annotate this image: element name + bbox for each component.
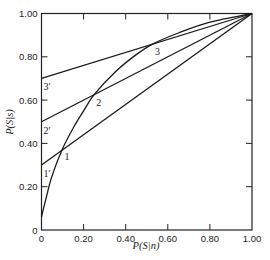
y-axis-title: P(S|s) (4, 109, 16, 136)
x-axis-title: P(S|n) (132, 240, 160, 252)
roc-chart: 00.200.400.600.801.0000.200.400.600.801.… (0, 0, 270, 260)
x-tick-label: 0.20 (74, 233, 93, 244)
axis-ticks: 00.200.400.600.801.0000.200.400.600.801.… (19, 8, 261, 244)
point-label: 3′ (44, 81, 51, 92)
point-label: 1 (65, 151, 70, 162)
x-tick-label: 0 (39, 233, 44, 244)
series-line (42, 14, 253, 166)
point-label: 2′ (44, 125, 51, 136)
y-tick-label: 0.40 (19, 138, 38, 149)
y-tick-label: 0 (32, 225, 37, 236)
y-tick-label: 0.60 (19, 95, 38, 106)
y-tick-label: 0.80 (19, 51, 38, 62)
series-line (42, 14, 253, 79)
x-tick-label: 0.60 (159, 233, 178, 244)
x-tick-label: 0.80 (201, 233, 220, 244)
series-line (42, 14, 253, 122)
point-label: 1′ (44, 168, 51, 179)
series-line (42, 14, 253, 218)
x-tick-label: 1.00 (243, 233, 262, 244)
point-label: 3 (155, 46, 160, 57)
data-series (42, 14, 253, 218)
point-label: 2 (96, 97, 101, 108)
y-tick-label: 1.00 (19, 8, 38, 19)
y-tick-label: 0.20 (19, 181, 38, 192)
